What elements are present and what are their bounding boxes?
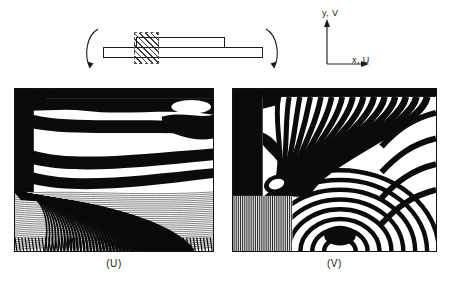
coordinate-axes: y, V x, U	[300, 8, 390, 74]
caption-u: (U)	[14, 258, 214, 269]
fringe-pattern-v	[233, 89, 436, 251]
fringe-panel-v	[232, 88, 437, 252]
caption-v: (V)	[232, 258, 437, 269]
specimen-schematic: y, V x, U	[0, 0, 453, 85]
axis-label-x: x, U	[352, 55, 370, 65]
specimen-lower-plate	[103, 47, 263, 58]
axis-label-y: y, V	[322, 8, 338, 18]
field-of-view-hatched-region	[134, 32, 159, 64]
figure-root: y, V x, U	[0, 0, 453, 283]
fringe-panel-u	[14, 88, 214, 252]
fringe-pattern-u	[15, 89, 213, 251]
